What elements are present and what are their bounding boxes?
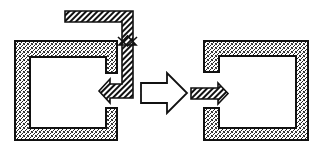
hatched-right-arrow-icon (191, 83, 228, 104)
straight-hatched-arrow (191, 83, 228, 104)
right-arrow-icon (141, 73, 187, 113)
diagram-canvas (0, 0, 324, 150)
transition-arrow (141, 73, 187, 113)
